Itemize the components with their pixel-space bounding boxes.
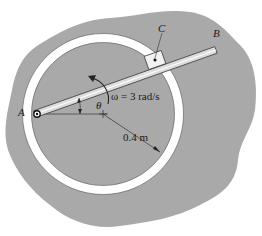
label-radius: 0.4 m [123,132,148,143]
diagram-canvas: A B C θ ω = 3 rad/s 0.4 m [0,0,262,236]
label-angle-theta: θ [96,100,101,111]
label-point-b: B [213,28,220,39]
label-angular-velocity: ω = 3 rad/s [111,91,160,102]
label-point-c: C [158,23,165,34]
mechanism-drawing [0,0,262,236]
label-point-a: A [18,107,25,118]
